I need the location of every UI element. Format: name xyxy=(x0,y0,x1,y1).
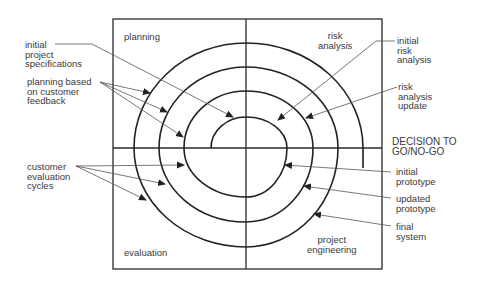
callout-updated-prototype: updated prototype xyxy=(396,194,436,213)
callout-risk-analysis-update: risk analysis update xyxy=(398,82,432,111)
callout-planning-based-on-customer-feedback: planning based on customer feedback xyxy=(27,77,91,106)
leader-initial-prototype xyxy=(285,165,391,172)
decision-go-no-go-label: DECISION TO GO/NO-GO xyxy=(392,137,457,156)
leader-risk-analysis-update xyxy=(306,87,397,118)
leader-customer-eval-3 xyxy=(76,166,146,200)
quadrant-label-project-engineering: project engineering xyxy=(307,235,357,254)
callout-initial-project-specifications: initial project specifications xyxy=(25,40,82,69)
quadrant-label-planning: planning xyxy=(124,32,160,42)
quadrant-label-evaluation: evaluation xyxy=(124,248,167,258)
leader-customer-eval-2 xyxy=(76,166,165,184)
quadrant-label-risk-analysis: risk analysis xyxy=(318,31,352,50)
leader-customer-eval-1 xyxy=(76,165,184,166)
leader-final-system xyxy=(314,214,391,226)
callout-initial-prototype: initial prototype xyxy=(396,167,436,186)
callout-final-system: final system xyxy=(396,222,426,241)
callout-customer-evaluation-cycles: customer evaluation cycles xyxy=(27,162,70,191)
callout-initial-risk-analysis: initial risk analysis xyxy=(397,36,431,65)
quadrant-frame xyxy=(113,19,382,269)
leader-planning-feedback-1 xyxy=(100,82,150,93)
leader-planning-feedback-2 xyxy=(100,82,167,112)
leader-updated-prototype xyxy=(304,186,391,198)
